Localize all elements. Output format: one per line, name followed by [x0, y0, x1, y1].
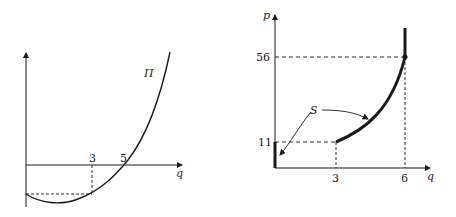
diagram-canvas: 3 5 q Π S p 56 11 3 6 q [0, 0, 456, 217]
supply-label: S [310, 104, 318, 117]
right-tick-11: 11 [258, 136, 272, 149]
left-x-label: q [176, 167, 183, 180]
left-tick-3: 3 [89, 152, 96, 165]
left-chart: 3 5 q Π [26, 52, 183, 207]
s-arrow-left [280, 112, 311, 155]
supply-curve [336, 57, 405, 142]
profit-label: Π [143, 67, 154, 80]
right-y-label: p [263, 9, 270, 22]
s-arrow-right [322, 110, 368, 119]
right-tick-6: 6 [401, 172, 408, 185]
right-tick-3: 3 [332, 172, 339, 185]
supply-point [403, 55, 408, 60]
left-tick-5: 5 [120, 152, 127, 165]
right-x-label: q [427, 170, 434, 183]
right-tick-56: 56 [256, 51, 270, 64]
right-chart: S p 56 11 3 6 q [256, 9, 434, 185]
